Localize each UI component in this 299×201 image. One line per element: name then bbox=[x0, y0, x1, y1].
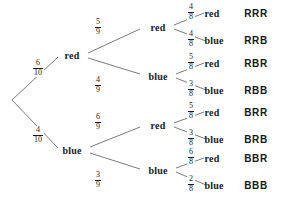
outcome-RRR: RRR bbox=[244, 8, 267, 19]
outcome-RBR: RBR bbox=[244, 58, 267, 69]
node-label-rbb: blue bbox=[204, 85, 223, 96]
outcome-BBB: BBB bbox=[244, 180, 267, 191]
fraction-denominator: 9 bbox=[95, 122, 101, 132]
branch-probability-root-to-b: 410 bbox=[32, 126, 44, 144]
branch-probability-bb-to-bbb: 28 bbox=[187, 175, 195, 193]
branch-probability-b-to-br: 69 bbox=[94, 113, 102, 131]
node-label-bb: blue bbox=[148, 165, 167, 176]
branch-probability-br-to-brb: 38 bbox=[187, 129, 195, 147]
node-label-b: blue bbox=[62, 145, 81, 156]
outcome-BBR: BBR bbox=[244, 153, 267, 164]
node-label-rrb: blue bbox=[204, 35, 223, 46]
branch-probability-rb-to-rbr: 58 bbox=[187, 53, 195, 71]
fraction-numerator: 3 bbox=[188, 129, 194, 138]
node-label-bbr: red bbox=[205, 153, 220, 164]
fraction-denominator: 9 bbox=[95, 27, 101, 37]
fraction-numerator: 3 bbox=[95, 171, 101, 180]
fraction-denominator: 8 bbox=[188, 138, 194, 148]
fraction-numerator: 4 bbox=[95, 76, 101, 85]
branch-probability-b-to-bb: 39 bbox=[94, 171, 102, 189]
branch-probability-bb-to-bbr: 68 bbox=[187, 148, 195, 166]
node-label-rr: red bbox=[151, 22, 166, 33]
fraction-denominator: 8 bbox=[188, 157, 194, 167]
fraction-denominator: 10 bbox=[33, 68, 43, 78]
node-label-brb: blue bbox=[204, 134, 223, 145]
fraction-numerator: 4 bbox=[188, 3, 194, 12]
fraction-numerator: 6 bbox=[188, 148, 194, 157]
branch-probability-root-to-r: 610 bbox=[32, 59, 44, 77]
fraction-numerator: 5 bbox=[188, 53, 194, 62]
fraction-numerator: 6 bbox=[33, 59, 43, 68]
fraction-numerator: 4 bbox=[33, 126, 43, 135]
tree-branch-line bbox=[90, 153, 140, 169]
fraction-denominator: 8 bbox=[188, 89, 194, 99]
tree-branch-line bbox=[88, 58, 140, 74]
outcome-BRB: BRB bbox=[244, 134, 267, 145]
probability-tree-diagram: redblue redblueredblue redblueredbluered… bbox=[0, 0, 299, 201]
fraction-denominator: 8 bbox=[188, 62, 194, 72]
outcome-RRB: RRB bbox=[244, 35, 267, 46]
node-label-rb: blue bbox=[148, 71, 167, 82]
outcome-BRR: BRR bbox=[244, 107, 267, 118]
node-label-r: red bbox=[65, 50, 80, 61]
fraction-numerator: 3 bbox=[188, 80, 194, 89]
node-label-rbr: red bbox=[205, 58, 220, 69]
fraction-denominator: 8 bbox=[188, 184, 194, 194]
node-label-bbb: blue bbox=[204, 180, 223, 191]
node-label-rrr: red bbox=[205, 8, 220, 19]
branch-probability-rr-to-rrr: 48 bbox=[187, 3, 195, 21]
branch-probability-rb-to-rbb: 38 bbox=[187, 80, 195, 98]
branch-probability-br-to-brr: 58 bbox=[187, 102, 195, 120]
node-label-brr: red bbox=[205, 107, 220, 118]
node-label-br: red bbox=[151, 120, 166, 131]
outcome-RBB: RBB bbox=[244, 85, 267, 96]
fraction-numerator: 4 bbox=[188, 30, 194, 39]
fraction-numerator: 6 bbox=[95, 113, 101, 122]
branch-probability-r-to-rb: 49 bbox=[94, 76, 102, 94]
fraction-numerator: 2 bbox=[188, 175, 194, 184]
fraction-denominator: 8 bbox=[188, 111, 194, 121]
fraction-numerator: 5 bbox=[188, 102, 194, 111]
fraction-denominator: 8 bbox=[188, 12, 194, 22]
fraction-denominator: 10 bbox=[33, 135, 43, 145]
fraction-numerator: 5 bbox=[95, 18, 101, 27]
branch-probability-rr-to-rrb: 48 bbox=[187, 30, 195, 48]
fraction-denominator: 8 bbox=[188, 39, 194, 49]
branch-probability-r-to-rr: 59 bbox=[94, 18, 102, 36]
fraction-denominator: 9 bbox=[95, 180, 101, 190]
fraction-denominator: 9 bbox=[95, 85, 101, 95]
